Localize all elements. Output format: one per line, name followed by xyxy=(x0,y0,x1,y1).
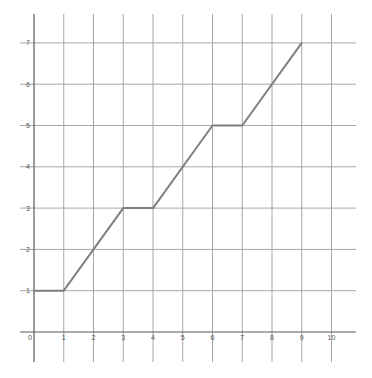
y-tick-labels: 1234567 xyxy=(26,39,30,294)
x-tick-label: 8 xyxy=(270,334,274,341)
y-tick-label: 5 xyxy=(26,122,30,129)
x-tick-label: 10 xyxy=(328,334,336,341)
y-tick-label: 7 xyxy=(26,39,30,46)
x-tick-labels: 012345678910 xyxy=(28,334,335,341)
x-tick-label: 9 xyxy=(300,334,304,341)
horizontal-gridlines xyxy=(20,43,356,291)
line-chart: 012345678910 1234567 xyxy=(0,0,372,378)
x-tick-label: 0 xyxy=(28,334,32,341)
axes xyxy=(20,14,356,362)
x-tick-label: 7 xyxy=(240,334,244,341)
y-tick-label: 4 xyxy=(26,163,30,170)
y-tick-label: 1 xyxy=(26,287,30,294)
x-tick-label: 3 xyxy=(121,334,125,341)
vertical-gridlines xyxy=(64,14,332,362)
x-tick-label: 4 xyxy=(151,334,155,341)
x-tick-label: 6 xyxy=(211,334,215,341)
y-tick-label: 2 xyxy=(26,246,30,253)
x-tick-label: 2 xyxy=(92,334,96,341)
x-tick-label: 5 xyxy=(181,334,185,341)
y-tick-label: 3 xyxy=(26,205,30,212)
x-tick-label: 1 xyxy=(62,334,66,341)
y-tick-label: 6 xyxy=(26,81,30,88)
